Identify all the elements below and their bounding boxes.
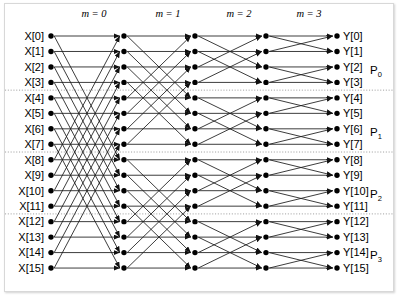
output-label-6: Y[6] <box>343 123 363 135</box>
node-col0-row0 <box>48 33 53 38</box>
node-col0-row4 <box>48 95 53 100</box>
node-col4-row13 <box>334 234 339 239</box>
stage-label-2: m = 2 <box>226 8 252 19</box>
partition-label-sub-2: 2 <box>378 194 382 203</box>
node-col1-row5 <box>121 111 126 116</box>
node-col4-row0 <box>334 33 339 38</box>
node-col3-row0 <box>263 33 268 38</box>
node-col3-row6 <box>263 126 268 131</box>
node-col0-row13 <box>48 234 53 239</box>
node-col1-row9 <box>121 173 126 178</box>
node-col3-row10 <box>263 188 268 193</box>
stage-label-0: m = 0 <box>81 8 107 19</box>
node-col3-row7 <box>263 142 268 147</box>
node-col2-row11 <box>192 203 197 208</box>
node-col4-row11 <box>334 203 339 208</box>
output-label-3: Y[3] <box>343 76 363 88</box>
output-label-15: Y[15] <box>343 262 369 274</box>
node-col1-row2 <box>121 64 126 69</box>
node-col1-row12 <box>121 219 126 224</box>
output-label-0: Y[0] <box>343 30 363 42</box>
output-label-1: Y[1] <box>343 45 363 57</box>
node-col1-row3 <box>121 80 126 85</box>
partition-label-group: P0P1P2P3 <box>370 64 382 264</box>
node-col3-row1 <box>263 49 268 54</box>
node-col0-row12 <box>48 219 53 224</box>
partition-label-2: P2 <box>370 188 382 203</box>
node-col4-row2 <box>334 64 339 69</box>
node-col3-row11 <box>263 203 268 208</box>
node-col0-row3 <box>48 80 53 85</box>
node-col2-row13 <box>192 234 197 239</box>
node-col3-row9 <box>263 173 268 178</box>
node-col3-row15 <box>263 265 268 270</box>
partition-label-3: P3 <box>370 249 382 264</box>
output-label-2: Y[2] <box>343 61 363 73</box>
node-col2-row2 <box>192 64 197 69</box>
partition-label-sub-3: 3 <box>378 255 382 264</box>
node-col4-row12 <box>334 219 339 224</box>
input-label-3: X[3] <box>24 76 44 88</box>
node-col2-row15 <box>192 265 197 270</box>
input-label-9: X[9] <box>24 169 44 181</box>
node-col0-row9 <box>48 173 53 178</box>
node-col0-row1 <box>48 49 53 54</box>
partition-label-sub-0: 0 <box>378 70 382 79</box>
node-col4-row7 <box>334 142 339 147</box>
figure-root: m = 0m = 1m = 2m = 3 X[0]X[1]X[2]X[3]X[4… <box>0 0 398 297</box>
node-col3-row13 <box>263 234 268 239</box>
butterfly-diagram-canvas: m = 0m = 1m = 2m = 3 X[0]X[1]X[2]X[3]X[4… <box>0 0 398 297</box>
input-label-5: X[5] <box>24 107 44 119</box>
node-col4-row15 <box>334 265 339 270</box>
node-col0-row6 <box>48 126 53 131</box>
node-col1-row13 <box>121 234 126 239</box>
node-col4-row9 <box>334 173 339 178</box>
output-label-4: Y[4] <box>343 92 363 104</box>
input-label-0: X[0] <box>24 30 44 42</box>
partition-label-0: P0 <box>370 64 382 79</box>
node-col1-row6 <box>121 126 126 131</box>
stage-label-3: m = 3 <box>296 8 321 19</box>
node-col3-row12 <box>263 219 268 224</box>
node-col2-row12 <box>192 219 197 224</box>
node-col1-row11 <box>121 203 126 208</box>
input-label-14: X[14] <box>18 246 44 258</box>
output-label-7: Y[7] <box>343 138 363 150</box>
node-col2-row14 <box>192 250 197 255</box>
input-label-10: X[10] <box>18 185 44 197</box>
input-label-8: X[8] <box>24 154 44 166</box>
node-col2-row9 <box>192 173 197 178</box>
node-col3-row4 <box>263 95 268 100</box>
node-col2-row4 <box>192 95 197 100</box>
output-label-5: Y[5] <box>343 107 363 119</box>
input-label-15: X[15] <box>18 262 44 274</box>
node-col4-row6 <box>334 126 339 131</box>
node-col2-row6 <box>192 126 197 131</box>
output-label-11: Y[11] <box>343 200 368 212</box>
node-col2-row10 <box>192 188 197 193</box>
input-label-2: X[2] <box>24 61 44 73</box>
node-col0-row2 <box>48 64 53 69</box>
node-col3-row3 <box>263 80 268 85</box>
node-col4-row5 <box>334 111 339 116</box>
partition-label-1: P1 <box>370 126 382 141</box>
node-col4-row10 <box>334 188 339 193</box>
node-col1-row14 <box>121 250 126 255</box>
output-label-9: Y[9] <box>343 169 363 181</box>
input-label-11: X[11] <box>19 200 44 212</box>
output-label-8: Y[8] <box>343 154 363 166</box>
node-col2-row1 <box>192 49 197 54</box>
stage-label-group: m = 0m = 1m = 2m = 3 <box>81 8 321 19</box>
node-col4-row3 <box>334 80 339 85</box>
partition-separators <box>5 90 393 214</box>
input-label-12: X[12] <box>18 215 44 227</box>
input-label-13: X[13] <box>18 231 44 243</box>
partition-label-sub-1: 1 <box>378 132 382 141</box>
node-col0-row8 <box>48 157 53 162</box>
node-col4-row1 <box>334 49 339 54</box>
node-col1-row8 <box>121 157 126 162</box>
node-col1-row7 <box>121 142 126 147</box>
node-col1-row15 <box>121 265 126 270</box>
node-col2-row0 <box>192 33 197 38</box>
input-label-1: X[1] <box>24 45 44 57</box>
